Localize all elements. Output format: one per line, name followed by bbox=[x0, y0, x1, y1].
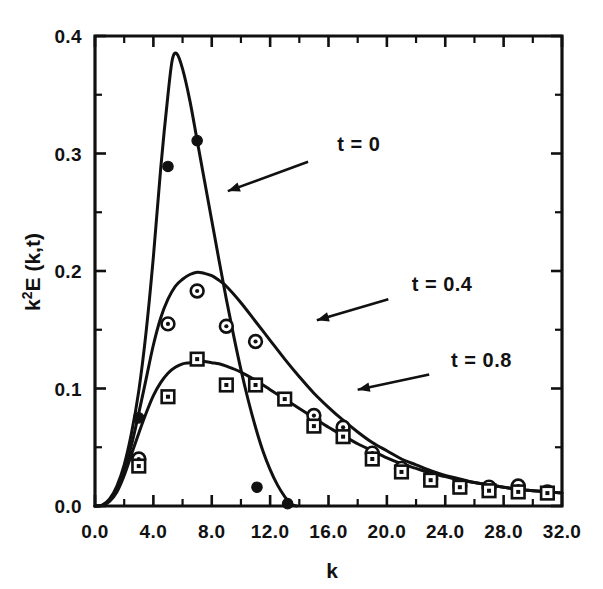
x-tick-label: 32.0 bbox=[543, 521, 582, 542]
data-point-filled-circle bbox=[134, 413, 144, 423]
data-point-square-dot-center bbox=[224, 383, 228, 387]
annotation-t08: t = 0.8 bbox=[358, 349, 512, 392]
data-point-square-dot-center bbox=[399, 470, 403, 474]
data-point-filled-circle bbox=[252, 482, 262, 492]
data-point-square-dot-center bbox=[516, 490, 520, 494]
x-tick-label: 4.0 bbox=[140, 521, 168, 542]
y-tick-label: 0.4 bbox=[54, 26, 82, 47]
x-tick-label: 0.0 bbox=[81, 521, 109, 542]
y-axis-title-k: k bbox=[21, 299, 44, 311]
axis-ticks bbox=[95, 36, 562, 506]
axis-frame bbox=[95, 36, 562, 506]
data-point-circle-dot-center bbox=[253, 339, 257, 343]
data-point-filled-circle bbox=[282, 498, 292, 508]
annotation-t0: t = 0 bbox=[228, 133, 381, 191]
data-curves bbox=[95, 53, 562, 506]
data-point-square-dot-center bbox=[487, 489, 491, 493]
annotation-label: t = 0.4 bbox=[412, 273, 473, 295]
data-point-square-dot-center bbox=[458, 485, 462, 489]
data-point-square-dot-center bbox=[312, 424, 316, 428]
series-annotations: t = 0t = 0.4t = 0.8 bbox=[228, 133, 512, 392]
data-point-square-dot-center bbox=[195, 357, 199, 361]
data-point-square-dot-center bbox=[341, 435, 345, 439]
y-tick-label: 0.2 bbox=[54, 261, 82, 282]
data-point-circle-dot-center bbox=[312, 413, 316, 417]
data-point-filled-circle bbox=[192, 135, 202, 145]
x-tick-label: 28.0 bbox=[484, 521, 523, 542]
y-tick-label: 0.1 bbox=[54, 379, 82, 400]
data-point-circle-dot-center bbox=[195, 289, 199, 293]
data-point-square-dot-center bbox=[283, 397, 287, 401]
annotation-arrow-head bbox=[317, 312, 330, 321]
curve-series-1 bbox=[95, 272, 562, 506]
y-axis-title-rest: E (k,t) bbox=[21, 233, 44, 291]
data-point-filled-circle bbox=[163, 161, 173, 171]
annotation-arrow-head bbox=[228, 182, 241, 191]
figure-container: 0.04.08.012.016.020.024.028.032.00.00.10… bbox=[0, 0, 603, 589]
data-point-circle-dot-center bbox=[166, 322, 170, 326]
data-point-square-dot-center bbox=[370, 457, 374, 461]
y-axis-title: k2E (k,t) bbox=[19, 233, 44, 311]
data-point-square-dot-center bbox=[166, 395, 170, 399]
annotation-leader-line bbox=[228, 162, 308, 191]
plot-frame bbox=[95, 36, 562, 506]
marker-group-series-1 bbox=[132, 285, 553, 499]
x-tick-label: 24.0 bbox=[426, 521, 465, 542]
x-tick-label: 16.0 bbox=[309, 521, 348, 542]
data-point-circle-dot-center bbox=[224, 324, 228, 328]
x-axis-title: k bbox=[326, 559, 338, 582]
annotation-label: t = 0.8 bbox=[451, 349, 512, 371]
data-markers bbox=[132, 135, 553, 508]
data-point-square-dot-center bbox=[254, 383, 258, 387]
data-point-square-dot-center bbox=[545, 491, 549, 495]
annotation-label: t = 0 bbox=[337, 133, 380, 155]
x-tick-label: 8.0 bbox=[198, 521, 226, 542]
data-point-square-dot-center bbox=[137, 464, 141, 468]
y-axis-title-exponent: 2 bbox=[19, 291, 35, 299]
chart-canvas: 0.04.08.012.016.020.024.028.032.00.00.10… bbox=[0, 0, 603, 589]
y-tick-label: 0.0 bbox=[54, 496, 82, 517]
y-axis-title-text: k2E (k,t) bbox=[19, 233, 44, 311]
y-tick-label: 0.3 bbox=[54, 144, 82, 165]
annotation-t04: t = 0.4 bbox=[317, 273, 473, 322]
x-tick-label: 20.0 bbox=[368, 521, 407, 542]
data-point-circle-dot-center bbox=[341, 425, 345, 429]
data-point-square-dot-center bbox=[429, 478, 433, 482]
curve-series-0 bbox=[95, 53, 296, 506]
x-tick-label: 12.0 bbox=[251, 521, 290, 542]
axis-titles: k k2E (k,t) bbox=[19, 233, 338, 582]
